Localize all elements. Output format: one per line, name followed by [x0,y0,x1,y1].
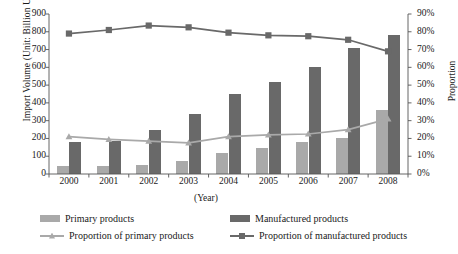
data-point-marker [305,33,311,39]
y-tick-left: 700 [32,45,46,55]
y-tick-right: 10% [417,151,434,161]
data-point-marker [186,24,192,30]
data-point-marker [345,37,351,43]
plot-area [49,14,408,174]
legend-item-proportion-manufactured: Proportion of manufactured products [230,230,407,241]
x-tick: 2002 [139,176,158,187]
y-tick-right: 0% [417,169,430,179]
x-axis-ticks: 200020012002200320042005200620072008 [49,176,408,192]
primary-products-swatch [40,215,60,222]
data-point-marker [106,27,112,33]
x-tick: 2006 [299,176,318,187]
y-tick-left: 300 [32,116,46,126]
chart-container: Import Volume (Unit: Billion USD) Propor… [0,0,458,254]
y-tick-right: 90% [417,9,434,19]
x-tick: 2007 [339,176,358,187]
y-tick-left: 800 [32,27,46,37]
y-tick-left: 600 [32,63,46,73]
legend-label: Primary products [65,213,134,224]
proportion-primary-line-swatch [40,231,64,240]
y-tick-right: 70% [417,45,434,55]
x-axis-title: (Year) [194,193,218,203]
data-point-marker [265,32,271,38]
y-tick-right: 60% [417,63,434,73]
y-axis-ticks-left: 9008007006005004003002001000 [10,14,46,174]
data-point-marker [225,30,231,36]
data-point-marker [146,22,152,28]
proportion-manufactured-line-swatch [230,231,254,240]
y-tick-right: 20% [417,134,434,144]
line-series-layer [49,14,408,174]
y-axis-ticks-right: 90%80%70%60%50%40%30%20%10%0% [417,14,457,174]
y-tick-left: 0 [41,169,46,179]
legend-label: Manufactured products [255,213,348,224]
chart-legend: Primary products Proportion of primary p… [40,213,450,247]
data-point-marker [385,115,392,121]
y-tick-right: 50% [417,80,434,90]
y-tick-left: 200 [32,134,46,144]
y-tick-left: 100 [32,151,46,161]
y-tick-right: 80% [417,27,434,37]
y-tick-left: 500 [32,80,46,90]
y-tick-right: 30% [417,116,434,126]
legend-item-primary-products: Primary products [40,213,134,224]
x-tick: 2003 [179,176,198,187]
x-tick: 2005 [259,176,278,187]
legend-label: Proportion of manufactured products [259,230,407,241]
y-tick-left: 400 [32,98,46,108]
data-point-marker [66,30,72,36]
legend-label: Proportion of primary products [69,230,194,241]
y-tick-right: 40% [417,98,434,108]
legend-item-manufactured-products: Manufactured products [230,213,348,224]
legend-item-proportion-primary: Proportion of primary products [40,230,194,241]
x-tick: 2004 [219,176,238,187]
y-tick-left: 900 [32,9,46,19]
manufactured-products-swatch [230,215,250,222]
data-point-marker [385,48,391,54]
x-tick: 2000 [59,176,78,187]
x-tick: 2001 [99,176,118,187]
x-tick: 2008 [379,176,398,187]
